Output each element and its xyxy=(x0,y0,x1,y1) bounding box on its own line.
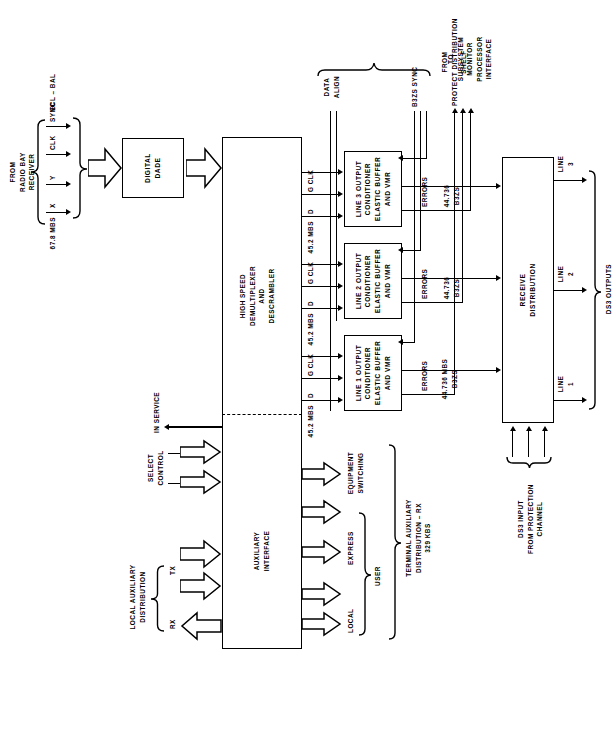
label-d-3: D xyxy=(306,209,316,214)
block-line1-conditioner: LINE 1 OUTPUT CONDITIONER ELASTIC BUFFER… xyxy=(344,335,402,411)
label-rx: RX xyxy=(168,619,178,629)
block-aux-interface-label: AUXILIARY INTERFACE xyxy=(252,511,271,591)
arrowhead-ds3-in-1 xyxy=(510,426,516,431)
label-gclk-3: G CLK xyxy=(306,170,316,192)
block-arrow-tx-2 xyxy=(180,539,222,569)
ds3-out-1 xyxy=(554,400,584,401)
line-y xyxy=(46,184,68,185)
stub-sync-2 xyxy=(402,250,420,251)
block-arrow-express-2 xyxy=(302,499,342,525)
ds3-in-3 xyxy=(544,429,545,457)
divider-dashed xyxy=(222,414,302,415)
label-gclk-2: G CLK xyxy=(306,262,316,284)
arrowhead-44736-2 xyxy=(496,276,501,282)
brace-ds3-outputs xyxy=(588,167,602,411)
arrowhead-ds3-out-1 xyxy=(582,398,587,404)
block-hs-demux-label: HIGH SPEED DEMULTIPLEXER AND DESCRAMBLER xyxy=(238,241,276,351)
label-rate-678: 67.8 MBS xyxy=(48,217,58,273)
block-receive-distribution-label: RECEIVE DISTRIBUTION xyxy=(518,263,537,317)
block-arrow-select xyxy=(180,469,222,495)
block-line1-conditioner-label: LINE 1 OUTPUT CONDITIONER ELASTIC BUFFER… xyxy=(354,341,392,405)
line-sync xyxy=(46,126,68,127)
arrowhead-sync-1 xyxy=(398,340,403,346)
brace-local-aux-dist xyxy=(150,563,165,633)
tap1-d xyxy=(302,400,340,401)
label-d-2: D xyxy=(306,301,316,306)
block-arrow-tx-1 xyxy=(180,571,222,601)
label-errors-1: ERRORS xyxy=(420,361,430,391)
label-rate-452-3: 45.2 MBS xyxy=(306,221,316,257)
block-arrow-local-2 xyxy=(302,581,342,607)
label-ecl-bal: ECL – BAL xyxy=(48,74,58,111)
label-from-radio-bay: FROM RADIO BAY RECEIVER xyxy=(8,117,37,227)
label-tx: TX xyxy=(168,566,178,575)
arrow-x xyxy=(66,210,71,216)
line-clk xyxy=(46,154,68,155)
bus-b3zs-sync-1 xyxy=(414,111,415,343)
label-errors-2: ERRORS xyxy=(420,269,430,299)
arrowhead-ds3-in-3 xyxy=(542,426,548,431)
block-line2-conditioner: LINE 2 OUTPUT CONDITIONER ELASTIC BUFFER… xyxy=(344,243,402,319)
arrow-y xyxy=(66,182,71,188)
block-arrow-control xyxy=(180,439,222,465)
label-rate-44736-3: 44.736 B3ZS xyxy=(442,171,461,221)
arrowhead-tap1-g xyxy=(338,376,343,382)
arrowhead-sync-3 xyxy=(398,156,403,162)
tap3-d xyxy=(302,216,340,217)
arrow-in-service xyxy=(164,425,169,431)
block-arrow-rx xyxy=(180,611,222,641)
tap2-d xyxy=(302,308,340,309)
label-line-3: LINE 3 xyxy=(556,151,575,177)
arrowhead-ds3-in-2 xyxy=(526,426,532,431)
arrow-clk xyxy=(66,152,71,158)
label-rate-452-2: 45.2 MBS xyxy=(306,313,316,349)
label-express: EXPRESS xyxy=(346,531,356,565)
brace-ds3-input xyxy=(506,455,552,469)
block-digital-dade: DIGITAL DADE xyxy=(122,138,184,198)
block-arrow-express xyxy=(302,539,342,565)
block-arrow-dade-to-demux xyxy=(186,147,222,189)
brace-from-protect-shelf xyxy=(316,61,432,77)
tap1-gclk xyxy=(302,378,340,379)
label-gclk-1: G CLK xyxy=(306,354,316,376)
label-line-2: LINE 2 xyxy=(556,261,575,287)
label-sig-x: X xyxy=(48,203,58,208)
label-local: LOCAL xyxy=(346,608,356,633)
arrowhead-tap3-d xyxy=(338,214,343,220)
label-d-1: D xyxy=(306,393,316,398)
label-equipment-switching: EQUIPMENT SWITCHING xyxy=(346,445,365,501)
arrowhead-tap2-g2 xyxy=(338,262,343,268)
stub-sync-3 xyxy=(402,158,426,159)
tap3-gclk xyxy=(302,194,340,195)
label-line-1: LINE 1 xyxy=(556,371,575,397)
stub-sync-1 xyxy=(402,342,414,343)
label-select-control: SELECT CONTROL xyxy=(146,441,165,495)
line-x xyxy=(46,212,68,213)
ds3-out-3 xyxy=(554,180,584,181)
arrowhead-tap2-g xyxy=(338,284,343,290)
label-ds3-input: DS3 INPUT FROM PROTECTION CHANNEL xyxy=(516,473,545,565)
ds3-out-2 xyxy=(554,290,584,291)
brace-to-dade xyxy=(72,116,88,220)
arrowhead-tap3-g xyxy=(338,192,343,198)
label-terminal-aux-dist: TERMINAL AUXILIARY DISTRIBUTION – RX 329… xyxy=(404,463,433,613)
label-rate-452-1: 45.2 MBS xyxy=(306,405,316,441)
arrowhead-tap1-d xyxy=(338,398,343,404)
label-to-subsystem: TO SUBSYSTEM MONITOR PROCESSOR INTERFACE xyxy=(446,9,494,109)
block-line3-conditioner-label: LINE 3 OUTPUT CONDITIONER ELASTIC BUFFER… xyxy=(354,157,392,221)
bus-b3zs-sync-3 xyxy=(426,111,427,159)
label-sig-clk: CLK xyxy=(48,135,58,150)
label-rate-44736-1: 44.736 MBS B3ZS xyxy=(440,347,459,411)
arrowhead-tap1-g2 xyxy=(338,354,343,360)
brace-terminal-aux-dist xyxy=(388,441,402,641)
label-user: USER xyxy=(373,551,383,601)
arrowhead-tap2-d xyxy=(338,306,343,312)
arrowhead-44736-1 xyxy=(496,368,501,374)
errors-bus3 xyxy=(470,111,471,211)
label-in-service: IN SERVICE xyxy=(152,392,162,433)
arrow-sync xyxy=(66,124,71,130)
arrowhead-ds3-out-2 xyxy=(582,288,587,294)
block-arrow-local xyxy=(302,611,342,637)
